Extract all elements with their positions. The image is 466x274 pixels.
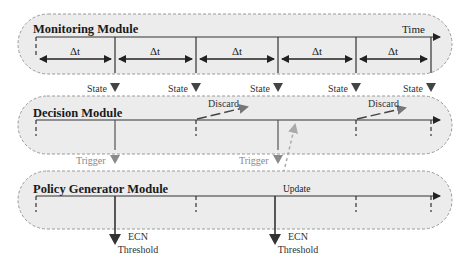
discard-label-1: Discard xyxy=(208,98,239,109)
state-arrow-icon xyxy=(191,83,201,92)
state-label-5: State xyxy=(403,83,424,94)
interval-label-4: Δt xyxy=(312,45,322,57)
trigger-label-2: Trigger xyxy=(239,155,269,166)
state-arrow-icon xyxy=(426,83,436,92)
discard-label-2: Discard xyxy=(368,98,399,109)
time-axis-label: Time xyxy=(402,23,425,35)
decision-module-panel: Decision Module Discard Discard xyxy=(18,96,452,154)
interval-label-3: Δt xyxy=(232,45,242,57)
state-signals: State State State State State xyxy=(87,83,436,94)
update-label: Update xyxy=(283,184,310,194)
ecn-label-1-line1: ECN xyxy=(128,231,148,242)
trigger-label-1: Trigger xyxy=(76,155,106,166)
trigger-arrow-icon xyxy=(273,155,283,164)
interval-label-5: Δt xyxy=(388,45,398,57)
monitoring-module-title: Monitoring Module xyxy=(33,22,139,36)
decision-module-title: Decision Module xyxy=(33,106,123,120)
ecn-label-2-line1: ECN xyxy=(288,231,308,242)
state-label-1: State xyxy=(87,83,108,94)
state-arrow-icon xyxy=(351,83,361,92)
policy-panel-bg xyxy=(18,171,452,229)
state-label-4: State xyxy=(328,83,349,94)
state-arrow-icon xyxy=(110,83,120,92)
state-arrow-icon xyxy=(273,83,283,92)
state-label-2: State xyxy=(168,83,189,94)
trigger-signals: Trigger Trigger xyxy=(76,155,283,166)
trigger-arrow-icon xyxy=(110,155,120,164)
interval-label-1: Δt xyxy=(70,45,80,57)
monitoring-module-panel: Monitoring Module Time Δt Δt Δt Δt Δt xyxy=(18,14,452,74)
interval-label-2: Δt xyxy=(150,45,160,57)
timeline-diagram: Monitoring Module Time Δt Δt Δt Δt Δt St… xyxy=(0,0,466,274)
policy-module-panel: Policy Generator Module Update xyxy=(18,171,452,229)
policy-module-title: Policy Generator Module xyxy=(33,182,169,196)
state-label-3: State xyxy=(250,83,271,94)
ecn-label-2-line2: Threshold xyxy=(278,244,319,255)
ecn-label-1-line2: Threshold xyxy=(118,244,159,255)
